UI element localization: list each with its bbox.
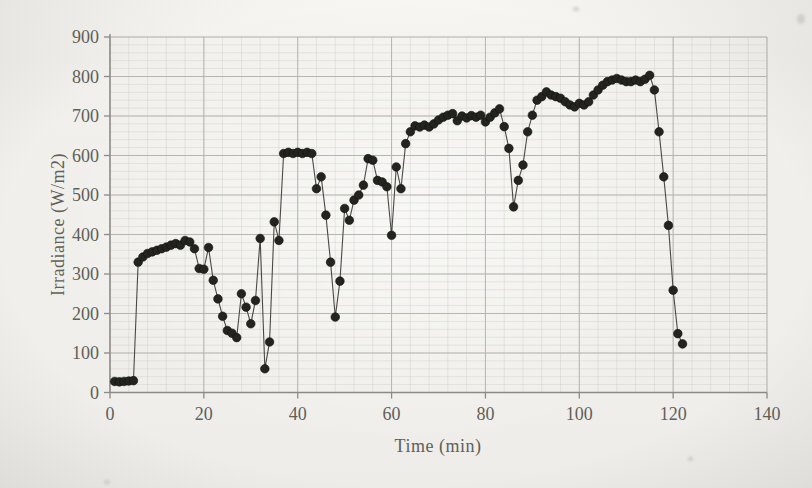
data-point — [190, 244, 199, 253]
x-tick-label: 80 — [476, 404, 494, 424]
data-point — [528, 111, 537, 120]
data-point — [251, 296, 260, 305]
data-point — [519, 161, 528, 170]
photo-speck — [573, 7, 579, 11]
data-point — [317, 173, 326, 182]
y-tick-label: 900 — [72, 27, 99, 47]
x-tick-label: 20 — [195, 404, 213, 424]
data-point — [678, 340, 687, 349]
data-point — [232, 333, 241, 342]
photo-speck — [797, 14, 805, 24]
data-point — [218, 312, 227, 321]
data-point — [312, 184, 321, 193]
y-tick-label: 500 — [72, 185, 99, 205]
data-point — [387, 231, 396, 240]
y-tick-label: 200 — [72, 304, 99, 324]
data-point — [369, 156, 378, 165]
x-tick-label: 100 — [566, 404, 593, 424]
x-tick-label: 60 — [383, 404, 401, 424]
x-tick-label: 120 — [660, 404, 687, 424]
data-point — [204, 243, 213, 252]
data-point — [214, 295, 223, 304]
data-point — [354, 191, 363, 200]
data-point — [246, 319, 255, 328]
data-point — [275, 236, 284, 245]
data-point — [270, 218, 279, 227]
data-point — [392, 163, 401, 172]
y-tick-label: 300 — [72, 264, 99, 284]
data-point — [331, 313, 340, 322]
data-point — [659, 173, 668, 182]
data-point — [500, 122, 509, 131]
y-tick-label: 600 — [72, 146, 99, 166]
data-point — [674, 329, 683, 338]
data-point — [645, 71, 654, 80]
scanned-chart-page: 0100200300400500600700800900020406080100… — [0, 0, 812, 488]
data-point — [650, 86, 659, 95]
data-point — [265, 338, 274, 347]
data-point — [237, 289, 246, 298]
data-point — [336, 277, 345, 286]
photo-speck — [688, 457, 693, 461]
y-tick-label: 0 — [90, 383, 99, 403]
data-point — [397, 184, 406, 193]
data-point — [340, 204, 349, 213]
data-point — [401, 139, 410, 148]
data-point — [322, 211, 331, 220]
data-point — [345, 216, 354, 225]
y-axis-title: Irradiance (W/m2) — [48, 125, 69, 325]
data-point — [495, 105, 504, 114]
y-tick-label: 400 — [72, 225, 99, 245]
data-point — [200, 265, 209, 274]
data-point — [326, 258, 335, 267]
data-point — [256, 234, 265, 243]
photo-speck — [104, 480, 110, 484]
irradiance-time-chart: 0100200300400500600700800900020406080100… — [0, 0, 812, 488]
data-point — [129, 376, 138, 385]
data-point — [523, 128, 532, 137]
data-point — [209, 276, 218, 285]
x-tick-label: 0 — [106, 404, 115, 424]
data-point — [514, 176, 523, 185]
data-point — [664, 221, 673, 230]
data-point — [669, 286, 678, 295]
data-point — [383, 182, 392, 191]
data-point — [261, 365, 270, 374]
x-tick-label: 140 — [754, 404, 781, 424]
data-point — [505, 144, 514, 153]
x-axis-title: Time (min) — [395, 436, 482, 457]
x-tick-label: 40 — [289, 404, 307, 424]
data-point — [509, 203, 518, 212]
data-point — [359, 181, 368, 190]
series-line — [115, 75, 683, 382]
y-tick-label: 700 — [72, 106, 99, 126]
y-tick-label: 100 — [72, 343, 99, 363]
data-point — [307, 149, 316, 158]
data-point — [655, 128, 664, 137]
y-tick-label: 800 — [72, 67, 99, 87]
data-point — [242, 303, 251, 312]
